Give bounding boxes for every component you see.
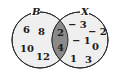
- set-x-label: X: [80, 6, 90, 17]
- set-x-element: 3: [85, 54, 92, 65]
- set-x-element: − 1: [72, 35, 91, 46]
- set-x-element: 0: [92, 41, 99, 52]
- set-b-element: 8: [38, 26, 45, 37]
- set-x-element: − 3: [68, 19, 87, 30]
- set-b-element: 6: [23, 24, 30, 35]
- set-x-element: 1: [70, 53, 77, 64]
- intersection-element: 2: [57, 27, 64, 38]
- set-b-element: 12: [36, 51, 50, 62]
- set-b-element: 10: [20, 43, 34, 54]
- intersection-element: 4: [57, 42, 64, 53]
- set-x-element: − 2: [88, 26, 107, 37]
- venn-diagram: B X 6 8 10 12 2 4 − 3 − 2 − 1 0 1 3: [0, 0, 116, 75]
- set-b-label: B: [31, 6, 40, 17]
